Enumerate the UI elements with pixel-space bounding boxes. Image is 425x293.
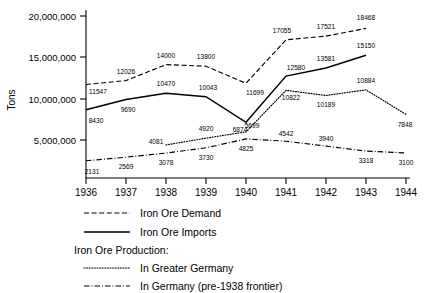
legend-label-imports: Iron Ore Imports (140, 226, 216, 238)
value-label: 10189 (317, 101, 336, 108)
xtick-label-1938: 1938 (155, 187, 178, 198)
xtick-label-1936: 1936 (75, 187, 98, 198)
value-label: 3100 (399, 159, 414, 166)
xtick-label-1942: 1942 (315, 187, 338, 198)
value-label: 13581 (317, 55, 336, 62)
ytick-label-15m: 15,000,000 (28, 52, 76, 63)
value-label: 12580 (287, 64, 306, 71)
xtick-label-1940: 1940 (235, 187, 258, 198)
value-label: 3730 (199, 154, 214, 161)
legend-group-heading: Iron Ore Production: (74, 244, 169, 256)
value-label: 18468 (357, 14, 376, 21)
x-axis-tick-labels: 1936 1937 1938 1939 1940 1941 1942 1943 … (75, 187, 418, 198)
value-label: 7848 (398, 121, 413, 128)
legend-label-pre-1938-germany: In Germany (pre-1938 frontier) (140, 280, 282, 292)
value-label: 11547 (89, 88, 107, 95)
ytick-label-5m: 5,000,000 (34, 135, 76, 146)
chart-canvas: 20,000,000 15,000,000 10,000,000 5,000,0… (0, 0, 425, 293)
value-label: 11699 (246, 89, 264, 96)
value-label: 3318 (359, 157, 374, 164)
y-axis-title: Tons (6, 89, 17, 110)
value-label: 5699 (245, 122, 260, 129)
value-label: 4825 (239, 145, 254, 152)
ytick-label-20m: 20,000,000 (28, 11, 76, 22)
value-label: 10884 (357, 77, 376, 84)
value-label: 14000 (157, 52, 176, 59)
value-label: 10043 (199, 84, 218, 91)
value-label: 10822 (282, 94, 301, 101)
value-label: 17055 (273, 27, 292, 34)
value-label: 17521 (317, 23, 336, 30)
value-label: 8430 (89, 117, 104, 124)
value-label: 2131 (85, 168, 100, 175)
value-label: 4081 (149, 138, 164, 145)
value-label: 2569 (119, 163, 134, 170)
value-label: 15150 (357, 42, 376, 49)
legend-label-greater-germany: In Greater Germany (140, 262, 234, 274)
value-label: 4920 (199, 125, 214, 132)
ytick-label-10m: 10,000,000 (28, 94, 76, 105)
xtick-label-1944: 1944 (395, 187, 418, 198)
value-label: 4542 (279, 130, 294, 137)
value-label: 10470 (157, 80, 176, 87)
xtick-label-1941: 1941 (275, 187, 298, 198)
legend-label-demand: Iron Ore Demand (140, 207, 221, 219)
value-label: 12026 (117, 68, 136, 75)
xtick-label-1939: 1939 (195, 187, 218, 198)
xtick-label-1943: 1943 (355, 187, 378, 198)
value-label: 13800 (197, 53, 216, 60)
chart-legend: Iron Ore Demand Iron Ore Imports Iron Or… (74, 207, 282, 292)
value-label: 3078 (159, 159, 174, 166)
xtick-label-1937: 1937 (115, 187, 138, 198)
value-label: 3940 (319, 135, 334, 142)
y-axis-tick-labels: 20,000,000 15,000,000 10,000,000 5,000,0… (28, 11, 76, 146)
value-label: 9690 (121, 106, 136, 113)
iron-ore-line-chart: 20,000,000 15,000,000 10,000,000 5,000,0… (0, 0, 425, 293)
